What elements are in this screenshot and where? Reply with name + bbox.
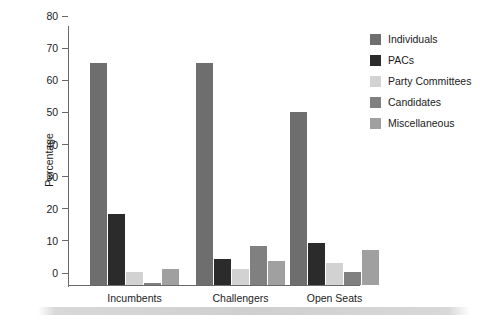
legend-label: Party Committees: [388, 75, 471, 87]
bar-individuals[interactable]: [90, 63, 107, 285]
y-tick-40: 40: [38, 139, 68, 151]
legend-swatch-icon: [370, 55, 381, 66]
bar-pacs[interactable]: [214, 259, 231, 285]
bar-individuals[interactable]: [196, 63, 213, 285]
bar-party-committees[interactable]: [126, 272, 143, 285]
plot-area: 01020304050607080: [68, 28, 358, 285]
legend-item-pacs[interactable]: PACs: [370, 54, 471, 66]
legend-swatch-icon: [370, 118, 381, 129]
legend-label: Candidates: [388, 96, 441, 108]
legend-label: Miscellaneous: [388, 117, 455, 129]
bar-pacs[interactable]: [308, 243, 325, 285]
y-tick-20: 20: [38, 203, 68, 215]
bar-group-challengers: [196, 28, 285, 285]
page-edge-band: [38, 307, 470, 315]
bar-chart-figure: Percentage 01020304050607080 IncumbentsC…: [0, 0, 488, 320]
bar-candidates[interactable]: [344, 272, 361, 285]
y-tick-mark: [62, 273, 68, 274]
y-tick-80: 80: [38, 10, 68, 22]
x-axis-line: [68, 285, 360, 286]
y-tick-label: 70: [38, 42, 58, 54]
bar-group-incumbents: [90, 28, 179, 285]
bar-candidates[interactable]: [250, 246, 267, 285]
y-tick-0: 0: [38, 267, 68, 279]
bar-miscellaneous[interactable]: [162, 269, 179, 285]
bar-individuals[interactable]: [290, 112, 307, 285]
y-tick-mark: [62, 16, 68, 17]
bar-miscellaneous[interactable]: [362, 250, 379, 285]
chart-legend: IndividualsPACsParty CommitteesCandidate…: [370, 33, 471, 129]
y-tick-label: 20: [38, 203, 58, 215]
bar-candidates[interactable]: [144, 283, 161, 285]
y-tick-label: 0: [38, 267, 58, 279]
legend-item-party-committees[interactable]: Party Committees: [370, 75, 471, 87]
legend-swatch-icon: [370, 97, 381, 108]
y-tick-mark: [62, 208, 68, 209]
legend-label: PACs: [388, 54, 414, 66]
y-tick-mark: [62, 112, 68, 113]
legend-item-individuals[interactable]: Individuals: [370, 33, 471, 45]
y-tick-label: 10: [38, 235, 58, 247]
legend-swatch-icon: [370, 34, 381, 45]
legend-label: Individuals: [388, 33, 438, 45]
bar-party-committees[interactable]: [232, 269, 249, 285]
y-tick-mark: [62, 80, 68, 81]
y-tick-label: 50: [38, 106, 58, 118]
legend-swatch-icon: [370, 76, 381, 87]
y-tick-mark: [62, 176, 68, 177]
y-tick-label: 80: [38, 10, 58, 22]
y-tick-mark: [62, 240, 68, 241]
bar-pacs[interactable]: [108, 214, 125, 285]
legend-item-candidates[interactable]: Candidates: [370, 96, 471, 108]
bar-party-committees[interactable]: [326, 263, 343, 285]
y-tick-label: 30: [38, 171, 58, 183]
y-tick-10: 10: [38, 235, 68, 247]
y-tick-30: 30: [38, 171, 68, 183]
y-tick-50: 50: [38, 106, 68, 118]
y-tick-60: 60: [38, 74, 68, 86]
y-tick-label: 60: [38, 74, 58, 86]
bar-miscellaneous[interactable]: [268, 261, 285, 285]
y-tick-mark: [62, 144, 68, 145]
legend-item-miscellaneous[interactable]: Miscellaneous: [370, 117, 471, 129]
y-tick-mark: [62, 48, 68, 49]
bar-group-open-seats: [290, 28, 379, 285]
y-tick-label: 40: [38, 139, 58, 151]
x-tick-label-open-seats: Open Seats: [270, 292, 399, 304]
y-tick-70: 70: [38, 42, 68, 54]
